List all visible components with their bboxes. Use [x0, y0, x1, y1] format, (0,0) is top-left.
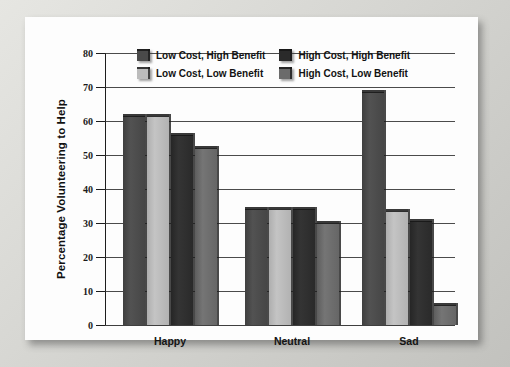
- bar-body: [195, 148, 217, 325]
- bar-group: [245, 53, 339, 325]
- bar-body: [317, 223, 339, 325]
- gridline: [105, 325, 455, 326]
- legend-label: Low Cost, Low Benefit: [156, 68, 263, 79]
- bar-top-face: [123, 114, 145, 117]
- bar-top-face: [386, 209, 408, 212]
- y-axis-tick-label: 10: [83, 286, 93, 297]
- y-axis-tick-label: 70: [83, 82, 93, 93]
- y-axis-tick: [96, 121, 105, 122]
- bar: [269, 209, 291, 325]
- y-axis-tick: [96, 223, 105, 224]
- legend-swatch: [137, 67, 150, 79]
- bar-top-face: [147, 114, 169, 117]
- y-axis-tick-label: 50: [83, 150, 93, 161]
- bar: [245, 209, 267, 325]
- bar-body: [293, 209, 315, 325]
- bar-body: [269, 209, 291, 325]
- x-axis-category-label: Happy: [154, 335, 186, 347]
- bar: [362, 92, 384, 325]
- y-axis-tick-label: 0: [88, 320, 93, 331]
- bar-body: [386, 211, 408, 325]
- bar-top-face: [434, 303, 456, 306]
- y-axis-tick: [96, 87, 105, 88]
- bar-group: [362, 53, 456, 325]
- legend-swatch: [279, 49, 292, 61]
- plot-area: 01020304050607080: [105, 53, 455, 325]
- x-axis-category-label: Sad: [399, 335, 418, 347]
- y-axis-tick: [96, 325, 105, 326]
- bar: [386, 211, 408, 325]
- figure-page: Percentage Volunteering to Help 01020304…: [0, 0, 510, 367]
- legend-item: Low Cost, Low Benefit: [137, 67, 265, 79]
- bar: [410, 221, 432, 325]
- legend-item: High Cost, Low Benefit: [279, 67, 410, 79]
- chart-legend: Low Cost, High BenefitHigh Cost, High Be…: [137, 49, 410, 79]
- y-axis-tick: [96, 155, 105, 156]
- bar-body: [362, 92, 384, 325]
- legend-label: High Cost, Low Benefit: [298, 68, 407, 79]
- legend-swatch: [137, 49, 150, 61]
- bar-top-face: [245, 207, 267, 210]
- y-axis-tick: [96, 53, 105, 54]
- bar-top-face: [362, 90, 384, 93]
- legend-swatch: [279, 67, 292, 79]
- y-axis-title: Percentage Volunteering to Help: [53, 53, 69, 325]
- figure-card: Percentage Volunteering to Help 01020304…: [25, 17, 478, 340]
- x-axis-category-label: Neutral: [274, 335, 310, 347]
- bar-side-face: [339, 221, 341, 325]
- bar: [123, 116, 145, 325]
- bar: [434, 305, 456, 325]
- bar-top-face: [410, 219, 432, 222]
- legend-label: Low Cost, High Benefit: [156, 50, 265, 61]
- bar: [317, 223, 339, 325]
- legend-item: Low Cost, High Benefit: [137, 49, 265, 61]
- legend-item: High Cost, High Benefit: [279, 49, 410, 61]
- bar-body: [171, 135, 193, 325]
- bar: [171, 135, 193, 325]
- bar-side-face: [456, 303, 458, 325]
- y-axis-tick-label: 30: [83, 218, 93, 229]
- y-axis-tick: [96, 257, 105, 258]
- bar-top-face: [293, 207, 315, 210]
- bar-body: [147, 116, 169, 325]
- y-axis-tick: [96, 291, 105, 292]
- bar-top-face: [195, 146, 217, 149]
- bar-top-face: [269, 207, 291, 210]
- bar: [147, 116, 169, 325]
- bar-side-face: [217, 146, 219, 325]
- bar-body: [245, 209, 267, 325]
- bar-body: [410, 221, 432, 325]
- bar-top-face: [171, 133, 193, 136]
- bar: [195, 148, 217, 325]
- y-axis-tick-label: 40: [83, 184, 93, 195]
- bar-top-face: [317, 221, 339, 224]
- y-axis-tick-label: 20: [83, 252, 93, 263]
- y-axis-title-text: Percentage Volunteering to Help: [55, 99, 67, 279]
- bar-body: [434, 305, 456, 325]
- y-axis-tick-label: 60: [83, 116, 93, 127]
- y-axis-tick-label: 80: [83, 48, 93, 59]
- bar: [293, 209, 315, 325]
- legend-label: High Cost, High Benefit: [298, 50, 410, 61]
- y-axis-tick: [96, 189, 105, 190]
- bar-body: [123, 116, 145, 325]
- bar-group: [123, 53, 217, 325]
